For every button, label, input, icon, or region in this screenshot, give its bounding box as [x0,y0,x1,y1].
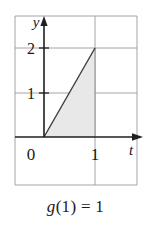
origin-label: 0 [27,145,36,164]
y-axis-label: y [31,14,40,30]
caption-argument: (1) [56,197,77,216]
y-tick-label-1: 1 [27,85,35,102]
figure-caption: g(1) = 1 [0,196,151,218]
caption-equals: = [76,197,95,216]
figure-root: y t 2 1 0 1 g(1) = 1 [0,0,151,235]
y-tick-label-2: 2 [27,40,35,57]
x-axis-arrowhead [132,133,143,141]
caption-value: 1 [95,197,104,216]
caption-function-name: g [47,197,56,216]
x-tick-label-1: 1 [91,145,100,164]
